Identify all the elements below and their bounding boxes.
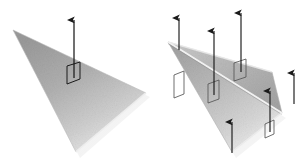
figure-canvas	[0, 0, 308, 164]
area-element-1	[174, 71, 184, 98]
folded-surface-panel	[168, 13, 294, 158]
geometry-illustration	[0, 0, 308, 164]
flat-surface-panel	[13, 20, 150, 158]
flat-triangle	[13, 30, 146, 152]
